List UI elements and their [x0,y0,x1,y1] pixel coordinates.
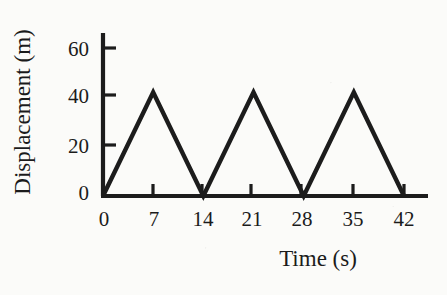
x-tick-label-14: 14 [193,207,215,231]
x-tick-label-0: 0 [99,207,110,231]
x-tick-label-42: 42 [394,207,415,231]
y-axis-title: Displacement (m) [10,29,35,194]
displacement-time-chart: Displacement (m) 60 40 20 0 0 7 14 21 28… [0,0,447,295]
y-tick-label-0: 0 [79,181,90,205]
x-tick-label-21: 21 [242,207,263,231]
y-tick-label-40: 40 [68,84,89,108]
figure-container: Displacement (m) 60 40 20 0 0 7 14 21 28… [0,0,447,295]
x-tick-label-28: 28 [292,207,313,231]
x-tick-label-35: 35 [343,207,364,231]
y-tick-label-20: 20 [68,134,89,158]
y-tick-label-60: 60 [68,37,89,61]
x-tick-label-7: 7 [149,207,160,231]
x-axis-title: Time (s) [279,246,357,271]
displacement-triangular-wave [103,92,404,196]
